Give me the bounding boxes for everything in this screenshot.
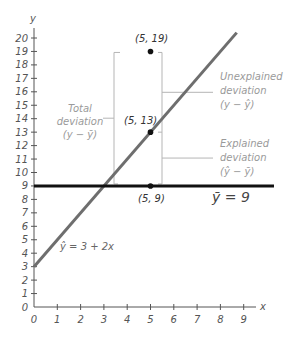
plot-lines	[34, 33, 274, 267]
data-point	[148, 129, 154, 135]
y-tick-label: 9	[22, 180, 28, 191]
x-tick-label: 2	[77, 314, 83, 325]
x-tick-label: 5	[147, 314, 153, 325]
unexplained-deviation-line3: (y − ŷ)	[220, 99, 254, 110]
total-deviation-line1: Total	[68, 103, 92, 114]
mean-equation: ȳ = 9	[211, 189, 250, 205]
y-tick-label: 8	[22, 194, 28, 205]
y-tick-label: 5	[22, 234, 28, 245]
y-tick-label: 16	[15, 86, 28, 97]
y-tick-label: 4	[22, 248, 28, 259]
total-deviation-bracket	[114, 52, 120, 184]
x-tick-label: 6	[171, 314, 177, 325]
y-tick-label: 3	[22, 261, 28, 272]
axis-ticks: 0123456789012345678910111213141516171819…	[15, 33, 247, 326]
unexplained-deviation-line2: deviation	[220, 85, 266, 96]
regression-deviation-chart: 0123456789012345678910111213141516171819…	[0, 0, 291, 340]
x-tick-label: 7	[194, 314, 201, 325]
explained-deviation-line3: (ŷ − ȳ)	[220, 166, 254, 177]
y-tick-label: 20	[15, 33, 28, 44]
x-tick-label: 1	[54, 314, 60, 325]
y-tick-label: 19	[15, 46, 28, 57]
regression-equation: ŷ = 3 + 2x	[59, 241, 114, 252]
x-tick-label: 3	[101, 314, 107, 325]
y-tick-label: 10	[15, 167, 28, 178]
x-tick-label: 4	[124, 314, 130, 325]
point-label-5-13: (5, 13)	[124, 115, 157, 126]
y-tick-label: 12	[15, 140, 28, 151]
total-deviation-line2: deviation	[57, 116, 103, 127]
y-tick-label: 1	[22, 288, 28, 299]
y-tick-label: 2	[22, 275, 28, 286]
y-tick-label: 11	[15, 154, 28, 165]
x-tick-label: 0	[31, 314, 37, 325]
x-tick-label: 8	[217, 314, 223, 325]
x-axis-label: x	[259, 301, 266, 312]
point-label-5-9: (5, 9)	[138, 193, 165, 204]
y-tick-label: 7	[22, 207, 29, 218]
explained-deviation-line2: deviation	[220, 152, 266, 163]
point-label-5-19: (5, 19)	[135, 33, 168, 44]
y-axis-label: y	[29, 13, 37, 24]
regression-line	[34, 33, 237, 267]
deviation-brackets	[103, 52, 213, 184]
y-tick-label: 13	[15, 127, 28, 138]
y-tick-label: 17	[15, 73, 28, 84]
y-tick-label: 18	[15, 59, 28, 70]
y-tick-label: 6	[22, 221, 28, 232]
unexplained-deviation-line1: Unexplained	[220, 71, 283, 82]
explained-deviation-line1: Explained	[220, 138, 270, 149]
data-point	[148, 183, 154, 189]
data-point	[148, 49, 154, 55]
y-tick-label: 0	[22, 302, 28, 313]
total-deviation-line3: (y − ȳ)	[63, 129, 97, 140]
y-tick-label: 15	[15, 100, 28, 111]
x-tick-label: 9	[241, 314, 247, 325]
y-tick-label: 14	[15, 113, 28, 124]
